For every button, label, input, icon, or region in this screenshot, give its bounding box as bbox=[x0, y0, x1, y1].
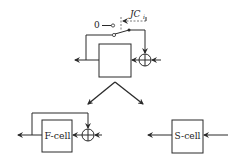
switch-blade bbox=[115, 30, 129, 34]
top-summing-junction-icon bbox=[139, 54, 151, 66]
split-arrow-right bbox=[115, 82, 143, 104]
block-diagram: 0 JC i F-cell bbox=[0, 0, 243, 164]
switch-open-contact bbox=[111, 24, 114, 27]
top-block-group: 0 JC i bbox=[75, 9, 161, 77]
open-contact-zero-label: 0 bbox=[94, 20, 100, 30]
split-arrow-left bbox=[88, 82, 115, 104]
jc-subscript: i bbox=[143, 13, 145, 20]
s-cell-group: S-cell bbox=[148, 120, 228, 153]
f-cell-summing-junction-icon bbox=[82, 129, 94, 141]
top-block-box bbox=[99, 44, 131, 77]
f-cell-group: F-cell bbox=[18, 113, 102, 152]
s-cell-label: S-cell bbox=[175, 130, 201, 141]
f-cell-label: F-cell bbox=[45, 130, 71, 141]
jc-label: JC bbox=[128, 9, 141, 19]
